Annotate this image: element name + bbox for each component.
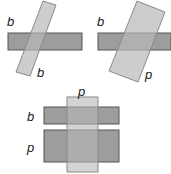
diagram-top-left: b b — [7, 1, 82, 80]
label-p-top: p — [77, 84, 85, 99]
label-p-left: p — [26, 140, 34, 155]
label-p-bottom: p — [144, 67, 152, 82]
diagram-canvas: b b b p p b p — [0, 0, 171, 174]
label-b-left: b — [27, 109, 34, 124]
diagram-bottom: p b p — [26, 84, 119, 172]
diagram-top-right: b p — [97, 1, 171, 82]
vertical-wide-bar — [67, 97, 98, 172]
label-b-top: b — [7, 14, 14, 29]
label-b-top: b — [97, 14, 104, 29]
label-b-bottom: b — [37, 65, 44, 80]
